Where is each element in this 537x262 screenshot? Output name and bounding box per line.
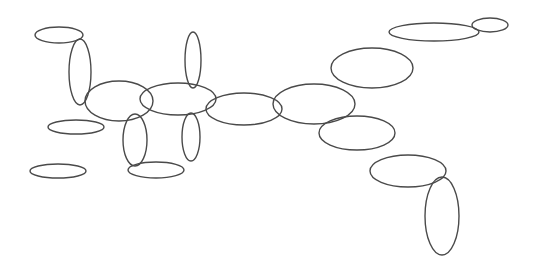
ellipse-shape	[206, 93, 282, 125]
ellipse-shape	[185, 32, 201, 88]
ellipse-shape	[128, 162, 184, 178]
ellipse-shape	[123, 114, 147, 166]
ellipse-shape	[370, 155, 446, 187]
ellipse-shape	[472, 18, 508, 32]
ellipse-shape	[30, 164, 86, 178]
ellipse-shape	[48, 120, 104, 134]
ellipse-shape	[319, 116, 395, 150]
ellipse-shape	[140, 83, 216, 115]
ellipse-diagram	[0, 0, 537, 262]
ellipse-diagram-canvas	[0, 0, 537, 262]
ellipse-shape	[69, 39, 91, 105]
ellipse-shape	[273, 84, 355, 124]
ellipse-shape	[389, 23, 479, 41]
ellipse-shape	[425, 177, 459, 255]
ellipse-shape	[182, 113, 200, 161]
ellipse-shape	[331, 48, 413, 88]
ellipse-shape	[85, 81, 153, 121]
